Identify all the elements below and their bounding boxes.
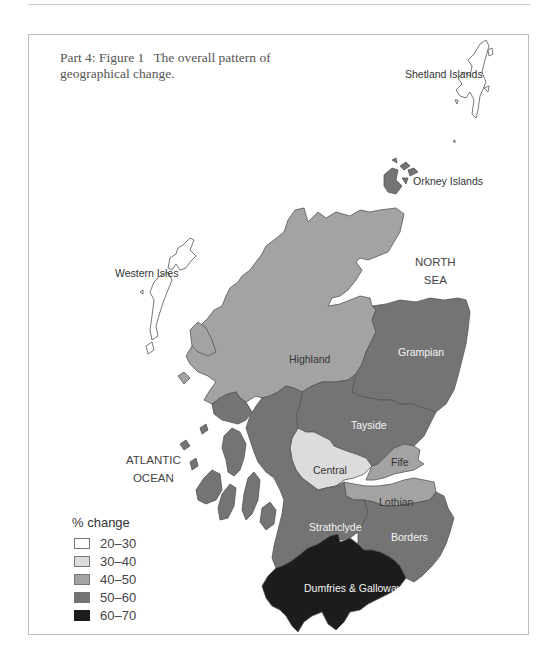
legend-label: 60–70 [100,608,136,623]
label-shetland: Shetland Islands [405,68,483,80]
legend-item: 30–40 [72,552,136,570]
label-central: Central [313,464,347,476]
legend-label: 20–30 [100,536,136,551]
legend-label: 40–50 [100,572,136,587]
legend-swatch [74,556,90,567]
legend-item: 20–30 [72,534,136,552]
label-dumfries-galloway: Dumfries & Galloway [304,582,402,594]
label-tayside: Tayside [351,419,387,431]
label-fife: Fife [391,456,409,468]
legend-item: 60–70 [72,606,136,624]
label-borders: Borders [391,531,428,543]
legend-item: 50–60 [72,588,136,606]
label-atlantic-ocean: ATLANTIC OCEAN [126,451,181,487]
label-western-isles: Western Isles [115,267,178,279]
region-shetland [453,40,493,143]
legend-title: % change [72,515,136,530]
label-highland: Highland [289,353,330,365]
legend-swatch [74,574,90,585]
label-lothian: Lothian [379,496,413,508]
label-grampian: Grampian [398,346,444,358]
label-orkney: Orkney Islands [413,175,483,187]
legend-swatch [74,610,90,621]
legend-item: 40–50 [72,570,136,588]
legend-swatch [74,592,90,603]
legend-label: 30–40 [100,554,136,569]
legend-swatch [74,538,90,549]
label-north-sea: NORTH SEA [415,253,456,289]
label-strathclyde: Strathclyde [309,521,362,533]
region-western-isles [140,238,196,354]
legend-label: 50–60 [100,590,136,605]
map-legend: % change 20–30 30–40 40–50 50–60 60–70 [72,515,136,624]
